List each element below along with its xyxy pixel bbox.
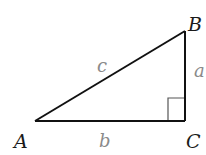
side-a-label: a xyxy=(194,60,205,81)
vertex-a-label: A xyxy=(12,130,28,152)
vertex-c-label: C xyxy=(186,130,201,152)
side-c-label: c xyxy=(97,55,107,76)
right-triangle-diagram: A B C a b c xyxy=(0,0,206,155)
side-b-label: b xyxy=(99,130,111,151)
right-angle-marker xyxy=(168,98,185,121)
side-c-line xyxy=(35,31,185,121)
vertex-b-label: B xyxy=(187,13,202,35)
